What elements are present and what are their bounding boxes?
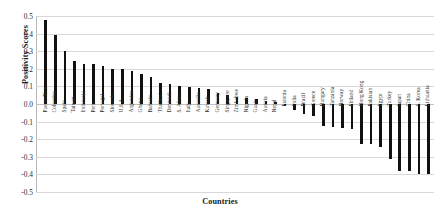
category-label: Singapore (224, 90, 230, 112)
category-label: Italy (186, 102, 192, 112)
y-tick-label: -0.1 (21, 117, 33, 126)
bar (398, 104, 401, 171)
bar (341, 104, 344, 128)
gridline (36, 86, 434, 87)
y-tick-label: -0.5 (21, 188, 33, 197)
category-label: Nepal (272, 99, 278, 112)
category-label: Ghana (138, 98, 144, 112)
category-label: Lithuania (425, 85, 431, 106)
category-label: Colombia (52, 91, 58, 113)
bar (322, 104, 325, 126)
category-label: Austria (262, 96, 268, 112)
category-label: Spain (61, 100, 67, 113)
category-label: Hungary (320, 87, 326, 106)
y-tick-label: 0.2 (24, 64, 33, 73)
x-axis-title: Countries (0, 197, 440, 206)
gridline (36, 51, 434, 52)
gridline (36, 192, 434, 193)
gridline (36, 174, 434, 175)
category-label: Egypt (377, 93, 383, 106)
category-label: Australia (195, 92, 201, 112)
category-label: India (291, 95, 297, 106)
positivity-scores-bar-chart: Positivity Scores 0.50.40.30.20.10.0-0.1… (0, 0, 440, 216)
category-label: Brazil (301, 93, 307, 106)
bar (408, 104, 411, 171)
gridline (36, 139, 434, 140)
gridline (36, 122, 434, 123)
category-label: S. Korea (415, 87, 421, 106)
category-label: Argentina (128, 91, 134, 113)
category-label: Pakistan (368, 88, 374, 107)
category-label: Bahrain (148, 95, 154, 112)
category-label: Finland (348, 90, 354, 107)
y-tick-label: -0.3 (21, 152, 33, 161)
category-label: Greece (310, 91, 316, 107)
bar (379, 104, 382, 147)
bar (427, 104, 430, 174)
y-tick-label: 0.4 (24, 29, 33, 38)
category-label: Germany (214, 92, 220, 112)
category-label: Thailand (157, 93, 163, 113)
y-tick-label: 0.3 (24, 47, 33, 56)
category-label: Guam (253, 99, 259, 112)
y-tick-label: 0.1 (24, 82, 33, 91)
bar (418, 104, 421, 174)
category-label: Peru (90, 102, 96, 112)
gridline (36, 157, 434, 158)
category-label: Zimbabwe (234, 89, 240, 113)
bar (332, 104, 335, 127)
bar (351, 104, 354, 129)
category-label: Japan (396, 94, 402, 107)
gridline (36, 69, 434, 70)
bar (64, 51, 67, 104)
y-tick-label: -0.4 (21, 170, 33, 179)
category-label: Norway (339, 89, 345, 107)
gridline (36, 16, 434, 17)
category-label: Turkey (387, 91, 393, 107)
category-label: China (406, 93, 412, 106)
category-label: Kuwait (205, 96, 211, 112)
y-tick-label: 0.0 (24, 100, 33, 109)
category-label: Nigeria (243, 96, 249, 113)
category-label: U.S.A. (119, 97, 125, 112)
bar (360, 104, 363, 144)
bar (389, 104, 392, 159)
category-label: Tanzania (329, 87, 335, 107)
bar (370, 104, 373, 144)
category-label: Slovenia (109, 93, 115, 112)
category-label: S. Africa (176, 93, 182, 113)
plot-area: 0.50.40.30.20.10.0-0.1-0.2-0.3-0.4-0.5 P… (36, 16, 434, 192)
category-label: Taiwan (71, 96, 77, 112)
category-label: Portugal (100, 94, 106, 113)
category-label: Denmark (167, 92, 173, 112)
category-label: Indonesia (81, 91, 87, 112)
gridline (36, 34, 434, 35)
category-label: Puerto Rico (42, 86, 48, 112)
category-label: Hong Kong (358, 81, 364, 107)
category-label: Estonia (281, 90, 287, 107)
y-tick-label: 0.5 (24, 12, 33, 21)
bar (92, 64, 95, 104)
y-tick-label: -0.2 (21, 135, 33, 144)
